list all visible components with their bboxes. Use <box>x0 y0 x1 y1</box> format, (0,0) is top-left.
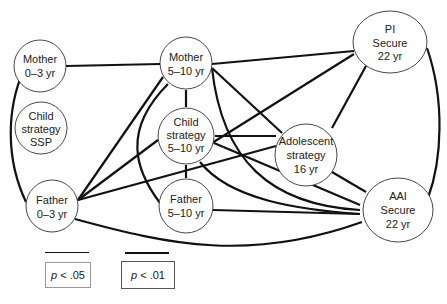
node-label-line: Child <box>28 110 53 122</box>
legend-threshold: < .01 <box>137 269 165 281</box>
node-label-line: Secure <box>381 204 416 216</box>
node-child-strategy-5-10: Child strategy 5–10 yr <box>158 108 214 164</box>
node-label-line: 0–3 yr <box>37 208 68 220</box>
nodes: Mother 0–3 yr Child strategy SSP Father … <box>14 11 433 242</box>
legend-threshold: < .05 <box>57 269 85 281</box>
edge-father03-mother510 <box>78 77 163 200</box>
node-label-line: 5–10 yr <box>168 207 205 219</box>
node-aai-secure-22: AAI Secure 22 yr <box>363 178 433 242</box>
node-label-line: Secure <box>373 37 408 49</box>
node-label-line: Child <box>173 116 198 128</box>
node-label-line: strategy <box>166 129 206 141</box>
attachment-path-diagram: Mother 0–3 yr Child strategy SSP Father … <box>0 0 447 304</box>
node-father-5-10: Father 5–10 yr <box>159 179 213 233</box>
node-label-line: 5–10 yr <box>168 65 205 77</box>
node-label-line: 0–3 yr <box>25 67 56 79</box>
node-label-line: Mother <box>23 53 58 65</box>
node-label-line: strategy <box>21 123 61 135</box>
node-pi-secure-22: PI Secure 22 yr <box>353 11 427 73</box>
edge-pi-aai <box>427 48 440 198</box>
edge-father03-aai <box>75 219 362 246</box>
edge-adolescent-pi <box>332 66 366 128</box>
edge-mother03-mother510 <box>66 64 160 66</box>
node-label-line: 16 yr <box>294 163 319 175</box>
node-label-line: PI <box>385 23 395 35</box>
node-label-line: Father <box>170 193 202 205</box>
node-father-0-3: Father 0–3 yr <box>26 180 78 232</box>
node-label-line: strategy <box>286 149 326 161</box>
node-label-line: SSP <box>30 136 52 148</box>
legend-box-p01: p < .01 <box>121 261 175 289</box>
edge-child510-pi <box>212 54 354 143</box>
node-label-line: Adolescent <box>279 135 333 147</box>
node-child-strategy-ssp: Child strategy SSP <box>15 102 67 154</box>
node-mother-5-10: Mother 5–10 yr <box>160 37 212 89</box>
legend-line-thick <box>125 252 169 254</box>
edge-mother510-pi <box>212 51 354 64</box>
node-label-line: AAI <box>389 190 407 202</box>
legend-box-p05: p < .05 <box>45 262 91 288</box>
node-label-line: Mother <box>169 51 204 63</box>
edge-mother510-adolescent <box>212 68 282 133</box>
node-label-line: 5–10 yr <box>168 142 205 154</box>
legend-line-thin <box>45 252 89 253</box>
node-mother-0-3: Mother 0–3 yr <box>14 40 66 92</box>
node-label-line: 22 yr <box>378 50 403 62</box>
edge-father03-child510 <box>78 140 158 200</box>
edge-adolescent-aai <box>332 172 366 192</box>
node-label-line: Father <box>36 194 68 206</box>
node-label-line: 22 yr <box>386 218 411 230</box>
node-adolescent-strategy-16: Adolescent strategy 16 yr <box>275 124 337 186</box>
